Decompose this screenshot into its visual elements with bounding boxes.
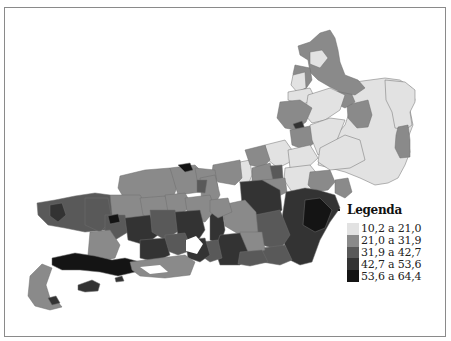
legend-item: 53,6 a 64,4 — [347, 270, 421, 282]
legend-item: 21,0 a 31,9 — [347, 235, 421, 247]
legend-label: 10,2 a 21,0 — [361, 223, 421, 234]
municipality-region — [395, 125, 410, 158]
legend-item: 10,2 a 21,0 — [347, 223, 421, 235]
legend-swatch — [347, 270, 359, 282]
legend-label: 21,0 a 31,9 — [361, 235, 421, 246]
municipality-region — [115, 276, 124, 282]
municipality-region — [335, 178, 352, 198]
legend-label: 53,6 a 64,4 — [361, 271, 421, 282]
municipality-region — [130, 255, 195, 278]
legend-item: 31,9 a 42,7 — [347, 247, 421, 259]
legend-swatch — [347, 258, 359, 270]
legend-swatch — [347, 223, 359, 235]
legend-item: 42,7 a 53,6 — [347, 258, 421, 270]
legend-title: Legenda — [347, 203, 421, 217]
municipality-region — [308, 170, 335, 192]
legend-swatch — [347, 247, 359, 259]
municipality-region — [52, 253, 140, 276]
municipality-region — [108, 214, 120, 224]
legend-label: 42,7 a 53,6 — [361, 259, 421, 270]
municipality-region — [197, 180, 207, 193]
choropleth-map — [0, 0, 451, 341]
legend-swatch — [347, 235, 359, 247]
municipality-region — [78, 280, 100, 292]
legend-label: 31,9 a 42,7 — [361, 247, 421, 258]
legend-items: 10,2 a 21,0 21,0 a 31,9 31,9 a 42,7 42,7… — [347, 223, 421, 282]
legend-bullet — [338, 209, 340, 211]
legend: Legenda 10,2 a 21,0 21,0 a 31,9 31,9 a 4… — [338, 203, 421, 282]
